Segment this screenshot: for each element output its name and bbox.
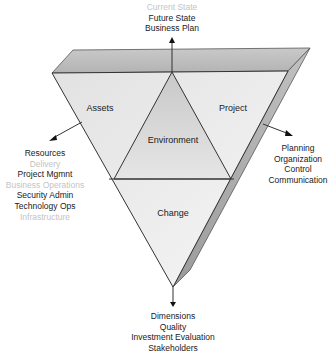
top-face (52, 48, 310, 73)
label-resources: Resources (0, 148, 90, 159)
label-delivery: Delivery (0, 159, 90, 170)
right-arrowhead-icon (285, 130, 293, 136)
left-arrow (53, 122, 82, 138)
label-technology-ops: Technology Ops (0, 201, 90, 212)
label-quality: Quality (113, 322, 233, 333)
right-arrow (263, 124, 289, 134)
right-labels: Planning Organization Control Communicat… (262, 143, 334, 185)
label-project-mgmnt: Project Mgmnt (0, 169, 90, 180)
label-stakeholders: Stakeholders (113, 343, 233, 354)
region-assets: Assets (86, 103, 113, 113)
label-organization: Organization (262, 154, 334, 165)
label-control: Control (262, 164, 334, 175)
bottom-arrowhead-icon (170, 302, 176, 307)
region-project: Project (219, 103, 247, 113)
left-labels: Resources Delivery Project Mgmnt Busines… (0, 148, 90, 222)
left-arrowhead-icon (49, 135, 57, 141)
label-business-operations: Business Operations (0, 180, 90, 191)
label-communication: Communication (262, 175, 334, 186)
label-business-plan: Business Plan (122, 23, 222, 34)
region-change: Change (157, 208, 189, 218)
label-infrastructure: Infrastructure (0, 212, 90, 223)
region-environment: Environment (148, 135, 199, 145)
label-investment-evaluation: Investment Evaluation (113, 332, 233, 343)
label-planning: Planning (262, 143, 334, 154)
top-labels: Current State Future State Business Plan (122, 2, 222, 34)
bottom-labels: Dimensions Quality Investment Evaluation… (113, 311, 233, 353)
top-arrowhead-icon (169, 37, 175, 43)
label-future-state: Future State (122, 13, 222, 24)
label-current-state: Current State (122, 2, 222, 13)
label-security-admin: Security Admin (0, 190, 90, 201)
label-dimensions: Dimensions (113, 311, 233, 322)
